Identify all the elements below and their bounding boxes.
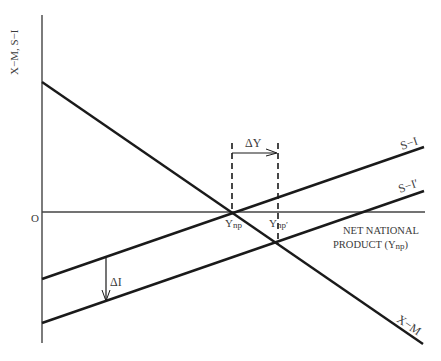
x-axis-label-line2: PRODUCT (Ynp) [333,239,409,251]
delta-y-label: ΔY [245,136,262,150]
delta-i-label: ΔI [110,275,122,289]
economics-diagram: X−M, S−I O S−I S−I′ X−M ΔY ΔI Ynp Ynp′ N… [0,0,441,361]
s-minus-i-prime-line [42,191,424,323]
origin-label: O [31,212,39,224]
y-axis-label: X−M, S−I [8,29,20,75]
s-minus-i-line [42,147,424,279]
x-axis-label-line1: NET NATIONAL [343,225,419,236]
